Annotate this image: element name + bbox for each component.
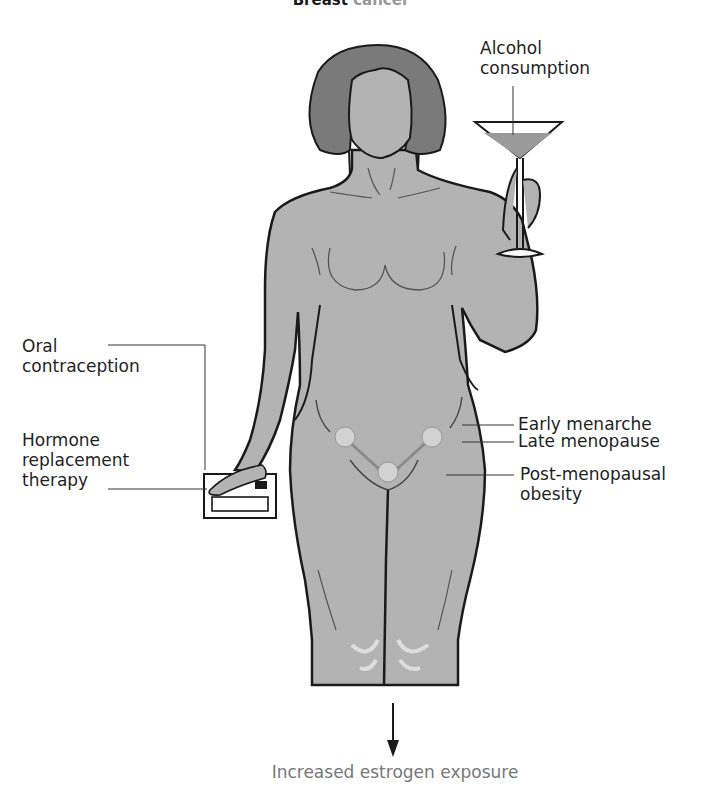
face — [349, 68, 412, 158]
down-arrow-icon — [387, 703, 399, 757]
label-post-menopausal-obesity: Post-menopausal obesity — [520, 464, 666, 504]
label-hormone-replacement-therapy: Hormone replacement therapy — [22, 430, 129, 490]
label-oral-contraception: Oral contraception — [22, 336, 140, 376]
woman-figure — [0, 0, 702, 798]
ovary-left — [335, 427, 355, 447]
uterus — [378, 462, 398, 482]
pill-pack-icon — [204, 465, 276, 518]
ovary-right — [422, 427, 442, 447]
label-alcohol-consumption: Alcohol consumption — [480, 38, 590, 78]
label-late-menopause: Late menopause — [518, 431, 660, 451]
label-increased-estrogen-exposure: Increased estrogen exposure — [250, 762, 540, 782]
